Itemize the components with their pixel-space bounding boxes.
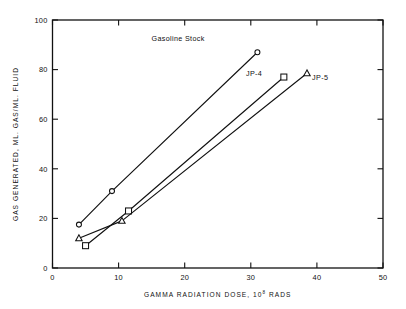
x-axis-title-units: RADS <box>266 291 291 298</box>
data-point-jp-4-0 <box>83 243 89 249</box>
series-label-jp-4: JP-4 <box>246 69 262 78</box>
series-label-gasoline-stock: Gasoline Stock <box>151 34 204 43</box>
data-point-jp-4-2 <box>281 74 287 80</box>
chart-figure: 01020304050 020406080100 Gasoline StockJ… <box>0 0 406 309</box>
y-tick-label-40: 40 <box>39 165 48 174</box>
data-point-gasoline-stock-1 <box>109 189 114 194</box>
x-tick-label-50: 50 <box>379 273 388 282</box>
x-tick-label-20: 20 <box>180 273 189 282</box>
data-point-jp-4-1 <box>126 208 132 214</box>
data-point-gasoline-stock-2 <box>255 50 260 55</box>
y-tick-label-60: 60 <box>39 115 48 124</box>
x-tick-label-0: 0 <box>50 273 54 282</box>
y-tick-label-20: 20 <box>39 214 48 223</box>
y-tick-label-0: 0 <box>43 264 47 273</box>
y-axis-title: GAS GENERATED, ML. GAS/ML. FLUID <box>12 67 19 221</box>
x-tick-label-10: 10 <box>114 273 123 282</box>
x-axis-title: GAMMA RADIATION DOSE, 108 RADS <box>144 290 292 298</box>
x-tick-label-40: 40 <box>313 273 322 282</box>
y-tick-label-80: 80 <box>39 65 48 74</box>
chart-background <box>0 0 406 309</box>
y-tick-label-100: 100 <box>35 16 48 25</box>
x-tick-label-30: 30 <box>246 273 255 282</box>
series-label-jp-5: JP-5 <box>312 73 328 82</box>
gas-generation-vs-radiation-dose-chart: 01020304050 020406080100 Gasoline StockJ… <box>0 0 406 309</box>
data-point-gasoline-stock-0 <box>76 222 81 227</box>
x-axis-title-main: GAMMA RADIATION DOSE, 10 <box>144 291 263 298</box>
